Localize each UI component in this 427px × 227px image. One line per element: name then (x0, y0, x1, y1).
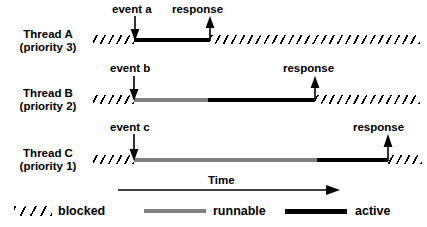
thread-c-event-arrow-icon (127, 134, 141, 162)
thread-c-label: Thread C (priority 1) (6, 147, 90, 173)
legend-runnable-label: runnable (213, 204, 266, 218)
thread-a-response-label: response (172, 3, 223, 16)
legend-blocked-label: blocked (58, 204, 105, 218)
thread-a-response-arrow-icon (203, 16, 217, 42)
thread-b-segment-active (208, 98, 315, 102)
thread-b-label: Thread B (priority 2) (6, 87, 90, 113)
legend-active-swatch (285, 209, 347, 214)
thread-a-label: Thread A (priority 3) (6, 28, 90, 54)
thread-c-response-arrow-icon (381, 134, 395, 162)
thread-b-response-arrow-icon (308, 76, 322, 102)
time-axis-arrow-icon (118, 183, 342, 197)
thread-a-segment-blocked-2 (210, 35, 420, 44)
thread-b-event-label: event b (110, 62, 150, 75)
thread-c-response-label: response (353, 121, 404, 134)
legend-active-label: active (355, 204, 390, 218)
timing-diagram: Thread A (priority 3) event a response T… (0, 0, 427, 227)
thread-b-segment-blocked-2 (315, 95, 420, 104)
thread-a-name: Thread A (23, 28, 72, 40)
thread-c-segment-runnable (134, 158, 317, 162)
thread-b-event-arrow-icon (127, 76, 141, 102)
thread-a-event-arrow-icon (128, 16, 142, 42)
thread-a-segment-active (134, 38, 210, 42)
thread-c-event-label: event c (110, 121, 150, 134)
thread-b-segment-runnable (134, 98, 208, 102)
thread-b-name: Thread B (23, 87, 73, 99)
legend-blocked-swatch (14, 206, 52, 216)
thread-c-name: Thread C (23, 147, 73, 159)
thread-a-event-label: event a (112, 3, 152, 16)
legend-runnable-swatch (144, 209, 206, 213)
thread-c-segment-active (317, 158, 388, 162)
thread-a-priority: (priority 3) (6, 41, 90, 54)
thread-b-response-label: response (283, 62, 334, 75)
thread-c-priority: (priority 1) (6, 160, 90, 173)
thread-b-priority: (priority 2) (6, 100, 90, 113)
